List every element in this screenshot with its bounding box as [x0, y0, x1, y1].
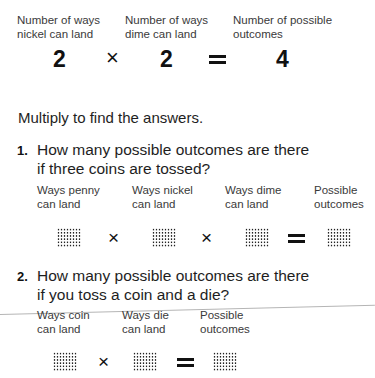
- instruction-text: Multiply to find the answers.: [18, 109, 203, 127]
- example-value-outcomes: 4: [276, 47, 289, 71]
- q1-label-outcomes: Possible outcomes: [314, 183, 364, 211]
- q2-answer-box-die[interactable]: [133, 352, 157, 371]
- equals-sign: [288, 234, 305, 243]
- q2-answer-box-outcomes[interactable]: [213, 352, 237, 371]
- example-label-outcomes: Number of possible outcomes: [233, 13, 332, 41]
- q1-label-dime: Ways dime can land: [225, 183, 281, 211]
- times-sign: ×: [201, 228, 212, 248]
- question-2-number: 2.: [17, 267, 28, 286]
- example-label-nickel: Number of ways nickel can land: [17, 13, 100, 41]
- question-1-text: How many possible outcomes are there if …: [37, 140, 309, 178]
- question-2-text: How many possible outcomes are there if …: [37, 266, 309, 304]
- example-label-dime: Number of ways dime can land: [125, 13, 208, 41]
- q2-label-coin: Ways coin can land: [37, 308, 90, 336]
- q1-answer-box-dime[interactable]: [245, 228, 269, 247]
- q2-label-die: Ways die can land: [122, 308, 169, 336]
- q1-answer-box-penny[interactable]: [57, 228, 81, 247]
- question-1-number: 1.: [17, 141, 28, 160]
- example-value-dime: 2: [160, 47, 173, 71]
- times-sign: ×: [98, 352, 109, 372]
- q1-label-nickel: Ways nickel can land: [132, 183, 193, 211]
- q1-answer-box-outcomes[interactable]: [327, 228, 351, 247]
- equals-sign: [209, 55, 226, 64]
- q2-answer-box-coin[interactable]: [53, 352, 77, 371]
- q2-label-outcomes: Possible outcomes: [200, 308, 250, 336]
- times-sign: ×: [106, 46, 119, 70]
- q1-answer-box-nickel[interactable]: [152, 228, 176, 247]
- example-value-nickel: 2: [53, 47, 66, 71]
- q1-label-penny: Ways penny can land: [37, 183, 100, 211]
- times-sign: ×: [108, 228, 119, 248]
- equals-sign: [177, 358, 194, 367]
